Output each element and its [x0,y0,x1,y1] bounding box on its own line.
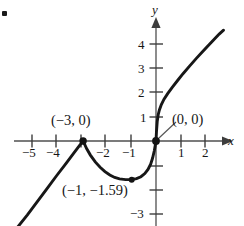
x-axis-label: x [228,134,234,147]
x-tick-label-neg5: −5 [22,146,36,159]
x-tick-label-2: 2 [202,146,209,159]
point-minimum-marker [129,177,135,183]
y-tick-label-1: 1 [140,111,147,124]
x-tick-label-neg1: −1 [122,146,136,159]
y-tick-label-neg3: −3 [130,207,144,220]
y-axis-label: y [152,3,158,16]
point-cusp-marker [79,137,86,144]
y-tick-label-3: 3 [138,62,145,75]
point-origin-marker [152,137,160,145]
annotation-minimum-point: (−1, −1.59) [62,183,128,198]
y-tick-label-4: 4 [138,38,145,51]
x-tick-label-neg2: −2 [96,146,110,159]
x-tick-label-neg4: −4 [46,146,60,159]
marked-points-group [79,137,160,183]
annotation-origin-point: (0, 0) [172,112,203,127]
x-tick-label-1: 1 [178,146,185,159]
annotation-cusp-point: (−3, 0) [51,113,91,128]
y-tick-label-2: 2 [138,86,145,99]
y-axis-arrowhead [151,17,160,28]
